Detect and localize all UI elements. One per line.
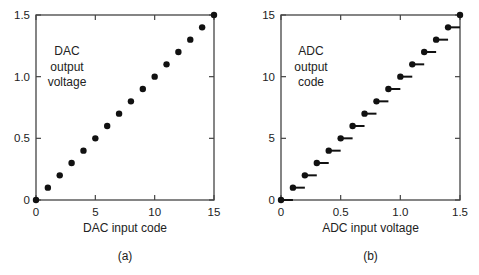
panel-caption: (b) [363,249,378,263]
data-point [33,197,39,203]
data-point [302,172,308,178]
panel-caption: (a) [118,249,133,263]
x-tick-label: 0 [278,206,284,218]
inset-label: ADCoutputcode [294,44,328,89]
data-point [445,24,451,30]
y-tick-label: 0 [24,194,30,206]
y-tick-label: 10 [262,71,275,83]
data-point [68,160,74,166]
data-point [314,160,320,166]
x-tick-label: 15 [208,206,221,218]
x-tick-label: 1.5 [452,206,468,218]
data-point [433,36,439,42]
data-point [199,24,205,30]
x-tick-label: 1.0 [392,206,408,218]
y-tick-label: 5 [269,132,275,144]
y-tick-label: 15 [262,9,275,21]
data-point [104,123,110,129]
data-point [397,73,403,79]
data-point [187,36,193,42]
data-point [421,49,427,55]
chart-panel-a: 05101500.51.01.5DACoutputvoltageDAC inpu… [14,9,220,263]
x-tick-label: 0 [33,206,39,218]
y-tick-label: 1.5 [14,9,30,21]
y-tick-label: 0.5 [14,132,30,144]
data-point [361,110,367,116]
data-point [128,98,134,104]
data-point [211,12,217,18]
x-axis-label: DAC input code [83,221,167,235]
data-point [409,61,415,67]
data-point [57,172,63,178]
plot-frame [36,15,214,200]
figure: 05101500.51.01.5DACoutputvoltageDAC inpu… [0,0,479,275]
plot-frame [281,15,460,200]
data-point [140,86,146,92]
data-point [349,123,355,129]
chart-canvas: 05101500.51.01.5DACoutputvoltageDAC inpu… [0,0,479,275]
y-tick-label: 0 [269,194,275,206]
x-tick-label: 0.5 [333,206,349,218]
chart-panel-b: 00.51.01.5051015ADCoutputcodeADC input v… [262,9,468,263]
x-tick-label: 5 [92,206,98,218]
data-point [373,98,379,104]
data-point [80,147,86,153]
data-point [337,135,343,141]
data-point [326,147,332,153]
x-axis-label: ADC input voltage [322,221,419,235]
data-point [175,49,181,55]
data-point [116,110,122,116]
data-point [151,73,157,79]
data-point [163,61,169,67]
data-point [385,86,391,92]
data-point [278,197,284,203]
data-point [92,135,98,141]
data-point [457,12,463,18]
data-point [45,184,51,190]
data-point [290,184,296,190]
x-tick-label: 10 [148,206,161,218]
y-tick-label: 1.0 [14,71,30,83]
inset-label: DACoutputvoltage [48,44,87,89]
